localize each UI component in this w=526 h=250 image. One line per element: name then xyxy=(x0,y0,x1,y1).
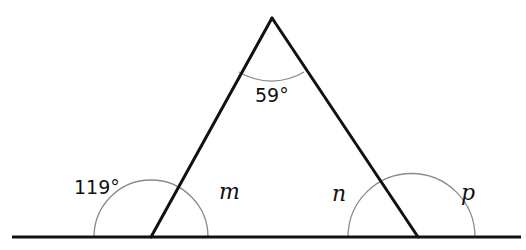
angle-n-label: n xyxy=(332,181,346,206)
apex-angle-arc xyxy=(239,72,304,81)
apex-angle-label: 59° xyxy=(255,84,289,106)
angle-p-label: p xyxy=(461,180,475,205)
left-side xyxy=(151,18,272,237)
triangle-diagram: 59° 119° m n p xyxy=(0,0,526,250)
left-exterior-angle-label: 119° xyxy=(74,176,120,198)
angle-m-label: m xyxy=(219,179,240,204)
